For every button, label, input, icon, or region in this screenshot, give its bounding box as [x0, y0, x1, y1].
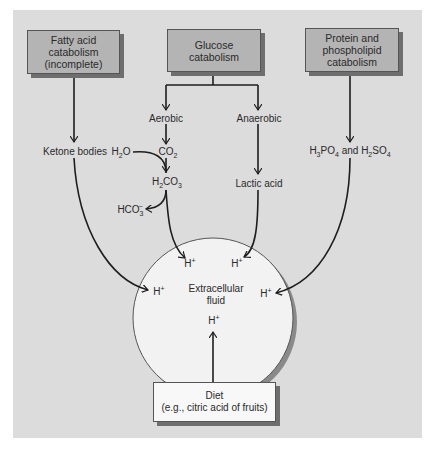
arrow-acids-to-h [276, 158, 350, 293]
box-label: catabolism [306, 56, 398, 68]
aerobic-label: Aerobic [149, 113, 183, 124]
hco3-sup: − [139, 203, 143, 210]
proton-right: H+ [260, 287, 271, 299]
extracellular-fluid-label: Extracellular fluid [188, 283, 243, 307]
protein-phospholipid-catabolism-box: Protein and phospholipid catabolism [305, 28, 399, 72]
proton-charge: + [161, 285, 165, 292]
lactic-acid-label: Lactic acid [235, 178, 282, 189]
arrow-ketone-to-h [74, 158, 148, 290]
box-label: (incomplete) [28, 58, 119, 70]
box-label: phospholipid [306, 44, 398, 56]
box-label: Protein and [306, 32, 398, 44]
h3po4-h2so4-label: H3PO4 and H2SO4 [309, 145, 390, 158]
fatty-acid-catabolism-box: Fatty acid catabolism (incomplete) [27, 30, 120, 74]
co2-label: CO2 [159, 146, 178, 159]
h2o-label: H2O [112, 146, 131, 159]
proton-top-left: H+ [184, 257, 195, 269]
h2so4-so: SO [372, 145, 386, 156]
h3po4-po: PO [321, 145, 335, 156]
co2-sub: 2 [174, 152, 178, 159]
box-label: catabolism [28, 46, 119, 58]
box-label: catabolism [168, 51, 260, 63]
ketone-bodies-label: Ketone bodies [43, 146, 107, 157]
h2o-o: O [123, 146, 131, 157]
and-text: and [339, 145, 361, 156]
arrow-h2co3-to-hco3 [146, 190, 166, 209]
h2co3-co: CO [163, 176, 178, 187]
proton-charge: + [239, 257, 243, 264]
hco3-base: HCO [117, 204, 139, 215]
box-label: Fatty acid [28, 34, 119, 46]
box-label: (e.g., citric acid of fruits) [154, 402, 275, 414]
box-label: Diet [154, 390, 275, 402]
proton-left: H+ [153, 285, 164, 297]
h2co3-sub2: 3 [178, 182, 182, 189]
box-label: Glucose [168, 39, 260, 51]
diet-box: Diet (e.g., citric acid of fruits) [153, 382, 276, 422]
hco3-label: HCO3− [117, 203, 142, 217]
proton-charge: + [268, 287, 272, 294]
proton-charge: + [192, 257, 196, 264]
proton-bottom: H+ [208, 314, 219, 326]
proton-top-right: H+ [231, 257, 242, 269]
circle-label-line2: fluid [188, 295, 243, 307]
glucose-catabolism-box: Glucose catabolism [167, 29, 261, 72]
h2so4-h: H [361, 145, 368, 156]
anaerobic-label: Anaerobic [236, 113, 281, 124]
hco3-sub: 3 [140, 210, 144, 217]
circle-label-line1: Extracellular [188, 283, 243, 295]
proton-charge: + [216, 314, 220, 321]
co2-co: CO [159, 146, 174, 157]
h2co3-label: H2CO3 [152, 176, 182, 189]
h2so4-sub2: 4 [387, 151, 391, 158]
